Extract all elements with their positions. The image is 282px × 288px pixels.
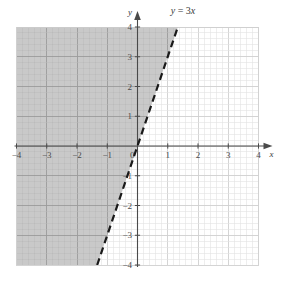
x-tick-label: −4 xyxy=(12,150,22,160)
y-tick-label: 1 xyxy=(128,111,133,121)
x-tick-label: 1 xyxy=(166,150,171,160)
x-tick-label: −2 xyxy=(72,150,82,160)
x-tick-label: −1 xyxy=(102,150,112,160)
y-tick-label: 2 xyxy=(128,82,133,92)
y-axis-label: y xyxy=(127,7,132,17)
arrow-up-icon xyxy=(134,11,141,20)
x-tick-label: 2 xyxy=(196,150,201,160)
x-tick-label: 4 xyxy=(256,150,261,160)
y-tick-label: 3 xyxy=(128,52,133,62)
y-tick-label: −2 xyxy=(122,201,132,211)
coordinate-plane-svg: −4−3−2−1012344321−1−2−3−4xyy = 3x xyxy=(0,0,282,288)
x-axis-label: x xyxy=(269,149,274,159)
graph-figure: −4−3−2−1012344321−1−2−3−4xyy = 3x xyxy=(0,0,282,288)
x-tick-label: −3 xyxy=(42,150,52,160)
y-tick-label: −3 xyxy=(122,230,132,240)
equation-label: y = 3x xyxy=(170,5,196,16)
y-tick-label: −4 xyxy=(122,260,132,270)
x-tick-label: 3 xyxy=(226,150,231,160)
y-tick-label: 4 xyxy=(128,22,133,32)
